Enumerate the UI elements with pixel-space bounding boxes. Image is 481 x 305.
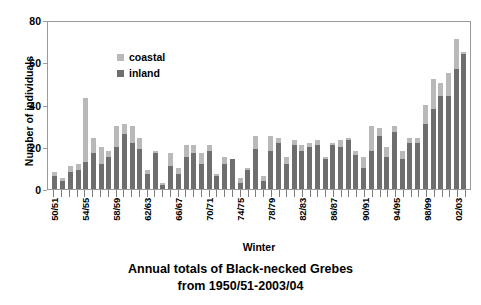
bar-slot (90, 22, 98, 189)
bar-slot (344, 22, 352, 189)
x-axis-label-slot (213, 198, 221, 242)
bar-slot (159, 22, 167, 189)
x-axis-label-slot (345, 198, 353, 242)
x-axis-tick (423, 190, 431, 198)
bar-segment-inland (284, 164, 289, 189)
stacked-bar (52, 172, 57, 189)
bar-segment-inland (76, 170, 81, 189)
bar-slot (205, 22, 213, 189)
x-axis-label-slot (252, 198, 260, 242)
x-axis-tick (283, 190, 291, 198)
bar-segment-inland (292, 145, 297, 189)
x-axis-tick (120, 190, 128, 198)
x-axis-label-slot: 50/51 (50, 198, 58, 242)
x-axis-tick-mark (294, 190, 295, 197)
stacked-bar (268, 136, 273, 189)
bar-segment-coastal (83, 98, 88, 161)
stacked-bar (377, 128, 382, 189)
bar-slot (59, 22, 67, 189)
bar-slot (329, 22, 337, 189)
x-axis-tick-mark (69, 190, 70, 197)
bar-segment-inland (191, 153, 196, 189)
x-axis-tick-mark (116, 190, 117, 197)
stacked-bar (99, 147, 104, 189)
stacked-bar (315, 140, 320, 189)
x-axis-tick-mark (317, 190, 318, 197)
bar-segment-coastal (361, 157, 366, 168)
bar-slot (414, 22, 422, 189)
bar-segment-inland (461, 54, 466, 189)
x-axis-label-slot (376, 198, 384, 242)
bar-segment-inland (346, 140, 351, 189)
x-axis-tick-mark (449, 190, 450, 197)
x-axis-label-slot: 82/83 (299, 198, 307, 242)
x-axis-tick (330, 190, 338, 198)
x-axis-tick-mark (123, 190, 124, 197)
x-axis-tick (376, 190, 384, 198)
x-axis-tick-mark (442, 190, 443, 197)
bar-segment-inland (91, 153, 96, 189)
x-axis-tick-mark (53, 190, 54, 197)
x-axis-tick-mark (310, 190, 311, 197)
bar-slot (175, 22, 183, 189)
x-axis-tick (151, 190, 159, 198)
x-axis-label-slot (89, 198, 97, 242)
legend-label-inland: inland (129, 67, 160, 79)
bar-segment-inland (199, 164, 204, 189)
bar-slot (452, 22, 460, 189)
stacked-bar (106, 151, 111, 189)
stacked-bar (145, 170, 150, 189)
bar-slot (190, 22, 198, 189)
legend-swatch-coastal-icon (117, 54, 124, 61)
x-axis-label-slot: 54/55 (81, 198, 89, 242)
stacked-bar (307, 143, 312, 189)
x-axis-tick-mark (372, 190, 373, 197)
stacked-bar (122, 124, 127, 189)
x-axis-label-slot (407, 198, 415, 242)
x-axis-tick-mark (100, 190, 101, 197)
stacked-bar (330, 143, 335, 189)
chart-title-line1: Annual totals of Black-necked Grebes (0, 261, 481, 278)
bar-segment-coastal (454, 39, 459, 69)
stacked-bar (253, 136, 258, 189)
bar-slot (82, 22, 90, 189)
bar-series-container (48, 22, 470, 189)
bar-slot (120, 22, 128, 189)
bar-segment-coastal (199, 153, 204, 164)
bar-segment-coastal (114, 126, 119, 147)
x-axis-tick-mark (193, 190, 194, 197)
bar-slot (128, 22, 136, 189)
x-axis-tick (446, 190, 454, 198)
x-axis-tick-mark (418, 190, 419, 197)
x-axis-label-slot (151, 198, 159, 242)
bar-slot (391, 22, 399, 189)
bar-segment-inland (145, 174, 150, 189)
x-axis-tick (267, 190, 275, 198)
bar-segment-inland (222, 164, 227, 189)
bar-slot (213, 22, 221, 189)
bar-segment-inland (238, 183, 243, 189)
x-axis-label-slot: 58/59 (112, 198, 120, 242)
bar-segment-inland (446, 96, 451, 189)
bar-segment-coastal (400, 151, 405, 159)
x-axis-tick-mark (139, 190, 140, 197)
bar-segment-inland (361, 168, 366, 189)
x-axis-tick-mark (411, 190, 412, 197)
bar-slot (275, 22, 283, 189)
x-axis-tick-mark (457, 190, 458, 197)
bar-segment-inland (160, 185, 165, 189)
x-axis-label-slot (337, 198, 345, 242)
stacked-bar (438, 83, 443, 189)
x-axis-tick (97, 190, 105, 198)
stacked-bar (168, 153, 173, 189)
x-axis-tick (407, 190, 415, 198)
bar-segment-inland (276, 143, 281, 189)
bar-segment-inland (431, 109, 436, 189)
x-axis-tick (462, 190, 470, 198)
x-axis-label-slot (97, 198, 105, 242)
bar-slot (51, 22, 59, 189)
bar-segment-inland (130, 143, 135, 189)
stacked-bar (346, 138, 351, 189)
bar-slot (136, 22, 144, 189)
chart-figure: Number of individuals 020406080 coastal … (0, 0, 481, 305)
